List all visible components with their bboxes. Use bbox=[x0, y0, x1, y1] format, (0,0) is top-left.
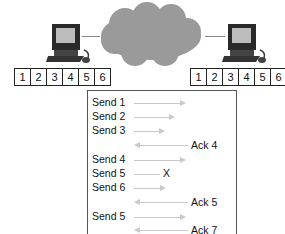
segment: 5 bbox=[79, 69, 95, 85]
sequence-label: Send 5 bbox=[92, 167, 125, 180]
lost-marker-icon: X bbox=[163, 167, 170, 180]
segment: 3 bbox=[47, 69, 63, 85]
sequence-label: Ack 4 bbox=[191, 139, 217, 152]
sender-segments: 1 2 3 4 5 6 bbox=[14, 68, 111, 86]
arrow-left bbox=[140, 230, 188, 231]
segment: 4 bbox=[63, 69, 79, 85]
segment: 4 bbox=[239, 69, 255, 85]
segment: 6 bbox=[271, 69, 285, 85]
sequence-label: Send 3 bbox=[92, 124, 125, 137]
segment: 6 bbox=[95, 69, 110, 85]
computer-icon bbox=[222, 22, 268, 66]
arrow-left bbox=[140, 202, 188, 203]
segment: 5 bbox=[255, 69, 271, 85]
segment: 2 bbox=[207, 69, 223, 85]
arrow-lost bbox=[134, 174, 160, 175]
segment: 1 bbox=[15, 69, 31, 85]
sequence-label: Ack 5 bbox=[191, 196, 217, 209]
receiver-segments: 1 2 3 4 5 6 bbox=[190, 68, 285, 86]
arrow-right bbox=[134, 117, 169, 118]
segment: 3 bbox=[223, 69, 239, 85]
sequence-label: Send 5 bbox=[92, 210, 125, 223]
segment: 1 bbox=[191, 69, 207, 85]
sequence-label: Send 1 bbox=[92, 96, 125, 109]
cloud-icon bbox=[95, 2, 207, 68]
arrow-right bbox=[134, 217, 180, 218]
arrow-left bbox=[140, 145, 188, 146]
sequence-label: Send 4 bbox=[92, 153, 125, 166]
arrowhead-right-icon bbox=[180, 157, 186, 163]
computer-icon bbox=[46, 22, 92, 66]
arrow-right bbox=[134, 103, 180, 104]
arrowhead-right-icon bbox=[159, 128, 165, 134]
arrowhead-right-icon bbox=[180, 100, 186, 106]
sequence-label: Send 6 bbox=[92, 181, 125, 194]
arrowhead-right-icon bbox=[169, 114, 175, 120]
sequence-label: Ack 7 bbox=[191, 224, 217, 234]
arrowhead-right-icon bbox=[180, 214, 186, 220]
sequence-label: Send 2 bbox=[92, 110, 125, 123]
segment: 2 bbox=[31, 69, 47, 85]
arrowhead-right-icon bbox=[160, 185, 166, 191]
arrow-right bbox=[134, 131, 159, 132]
arrow-right bbox=[134, 160, 180, 161]
sequence-panel: Send 1 Send 2 Send 3 Ack 4 Send 4 Send 5… bbox=[87, 90, 237, 234]
arrow-right bbox=[134, 188, 160, 189]
